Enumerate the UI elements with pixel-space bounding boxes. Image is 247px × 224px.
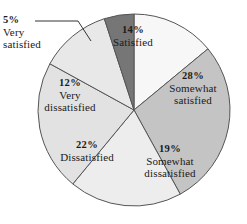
pie-label-somewhat-dissatisfied-name-line1: Somewhat [129, 155, 211, 167]
pie-label-somewhat-dissatisfied-percent: 19% [129, 143, 211, 155]
pie-label-satisfied: 14% Satisfied [104, 24, 162, 48]
pie-label-somewhat-satisfied-percent: 28% [155, 70, 231, 82]
pie-label-somewhat-satisfied-name-line1: Somewhat [155, 82, 231, 94]
pie-label-very-dissatisfied-name-line2: dissatisfied [31, 101, 109, 113]
pie-label-somewhat-satisfied: 28% Somewhat satisfied [155, 70, 231, 107]
pie-label-very-dissatisfied-name-line1: Very [31, 89, 109, 101]
pie-label-somewhat-dissatisfied-name-line2: dissatisfied [129, 167, 211, 179]
pie-label-somewhat-satisfied-name-line2: satisfied [155, 94, 231, 106]
pie-label-satisfied-percent: 14% [104, 24, 162, 36]
pie-label-dissatisfied: 22% Dissatisfied [48, 139, 126, 163]
pie-label-very-satisfied: 5% Very satisfied [3, 14, 51, 51]
pie-label-dissatisfied-percent: 22% [48, 139, 126, 151]
pie-label-very-satisfied-percent: 5% [3, 14, 51, 26]
pie-label-very-dissatisfied: 12% Very dissatisfied [31, 77, 109, 114]
pie-label-somewhat-dissatisfied: 19% Somewhat dissatisfied [129, 143, 211, 180]
pie-label-very-satisfied-name-line1: Very [3, 26, 51, 38]
pie-chart: 14% Satisfied 28% Somewhat satisfied 19%… [0, 0, 247, 224]
pie-label-satisfied-name: Satisfied [104, 36, 162, 48]
pie-label-very-satisfied-name-line2: satisfied [3, 38, 51, 50]
pie-label-dissatisfied-name: Dissatisfied [48, 151, 126, 163]
pie-label-very-dissatisfied-percent: 12% [31, 77, 109, 89]
